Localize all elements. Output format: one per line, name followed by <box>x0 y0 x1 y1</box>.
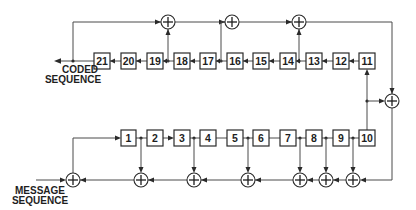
bottom-xor-3 <box>241 173 255 187</box>
cell-label: 14 <box>282 55 294 67</box>
cell-label: 18 <box>176 55 188 67</box>
register-cell-6: 6 <box>253 130 269 146</box>
bottom-xor-4 <box>293 173 307 187</box>
register-cell-10: 10 <box>359 130 375 146</box>
cell-label: 4 <box>205 132 211 144</box>
bottom-xor-taps <box>139 138 356 173</box>
message-sequence-label-line2: SEQUENCE <box>12 195 68 206</box>
register-cell-8: 8 <box>306 130 322 146</box>
cell-label: 10 <box>361 132 373 144</box>
bottom-xor-6 <box>346 173 360 187</box>
register-cell-11: 11 <box>359 53 375 69</box>
register-cell-12: 12 <box>333 53 349 69</box>
register-cell-14: 14 <box>280 53 296 69</box>
top-xor-3 <box>292 15 306 29</box>
cell-label: 17 <box>202 55 214 67</box>
register-cell-15: 15 <box>253 53 269 69</box>
cell-label: 15 <box>255 55 267 67</box>
cell-label: 11 <box>361 55 372 67</box>
cell-label: 3 <box>179 132 185 144</box>
bottom-xor-5 <box>319 173 333 187</box>
cell-label: 20 <box>123 55 135 67</box>
cell-label: 5 <box>232 132 238 144</box>
cell-label: 13 <box>308 55 320 67</box>
register-cell-5: 5 <box>227 130 243 146</box>
right-connector <box>365 69 393 180</box>
cell-label: 19 <box>149 55 161 67</box>
cell-label: 8 <box>311 132 317 144</box>
register-cell-2: 2 <box>147 130 163 146</box>
right-xor <box>385 94 399 108</box>
encoder-diagram: 21 20 19 18 17 16 15 14 13 12 11 <box>0 0 416 210</box>
register-cell-4: 4 <box>200 130 216 146</box>
top-register: 21 20 19 18 17 16 15 14 13 12 11 <box>94 53 375 69</box>
register-cell-18: 18 <box>174 53 190 69</box>
register-cell-7: 7 <box>280 130 296 146</box>
top-xor-2 <box>225 15 239 29</box>
register-cell-13: 13 <box>306 53 322 69</box>
cell-label: 7 <box>285 132 291 144</box>
coded-sequence-label-line2: SEQUENCE <box>45 74 101 85</box>
bottom-xor-2 <box>187 173 201 187</box>
cell-label: 12 <box>335 55 347 67</box>
register-cell-20: 20 <box>121 53 136 69</box>
cell-label: 9 <box>338 132 344 144</box>
register-cell-16: 16 <box>227 53 243 69</box>
bottom-xor-1 <box>134 173 148 187</box>
register-cell-3: 3 <box>174 130 190 146</box>
register-cell-17: 17 <box>200 53 216 69</box>
register-cell-1: 1 <box>121 130 136 146</box>
cell-label: 6 <box>258 132 264 144</box>
cell-label: 1 <box>126 132 132 144</box>
top-xor-1 <box>161 15 175 29</box>
cell-label: 16 <box>229 55 241 67</box>
register-cell-9: 9 <box>333 130 349 146</box>
cell-label: 2 <box>152 132 158 144</box>
bottom-xor-input <box>66 173 80 187</box>
register-cell-19: 19 <box>147 53 163 69</box>
